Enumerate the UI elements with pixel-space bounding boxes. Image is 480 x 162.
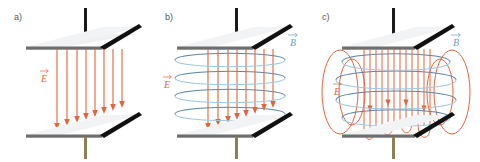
panel-a: a) E xyxy=(0,0,158,162)
e-field-label: E xyxy=(40,73,47,84)
e-field-lines xyxy=(57,49,122,126)
panel-a-label: a) xyxy=(14,12,22,22)
bottom-plate-edge xyxy=(342,135,415,138)
b-field-label: B xyxy=(290,37,296,48)
top-plate-edge xyxy=(177,47,253,50)
top-lead xyxy=(235,8,238,34)
bottom-plate xyxy=(342,112,455,138)
b-field-rings-back xyxy=(175,53,285,114)
b-field-label-group: B xyxy=(451,33,460,48)
e-field-label-group: E xyxy=(40,69,48,84)
e-field-label: E xyxy=(333,86,340,97)
bottom-plate-edge xyxy=(177,135,253,138)
top-plate-edge xyxy=(26,47,102,50)
b-field-label-group: B xyxy=(288,33,297,48)
panel-c-label: c) xyxy=(322,12,330,22)
panel-c: c) E B xyxy=(312,0,480,162)
b-field-rings-back xyxy=(336,54,456,118)
bottom-plate-edge xyxy=(26,135,102,138)
panel-a-svg: a) E xyxy=(0,0,158,162)
top-plate xyxy=(342,24,455,50)
figure-root: a) E xyxy=(0,0,480,162)
panel-b-svg: b) E B xyxy=(155,0,315,162)
panel-c-svg: c) E B xyxy=(312,0,480,162)
e-field-label-group: E xyxy=(163,75,171,90)
e-field-lines xyxy=(208,49,273,126)
top-lead xyxy=(84,8,87,34)
panel-b: b) E B xyxy=(155,0,315,162)
bottom-plate xyxy=(26,112,142,138)
b-field-label: B xyxy=(453,37,459,48)
e-field-label-group: E xyxy=(333,82,341,97)
top-lead xyxy=(392,8,395,34)
bottom-lead xyxy=(392,137,395,159)
e-field-label: E xyxy=(163,79,170,90)
top-plate-edge xyxy=(342,47,415,50)
bottom-lead xyxy=(84,137,87,159)
panel-b-label: b) xyxy=(165,12,173,22)
bottom-lead xyxy=(235,137,238,159)
b-field-rings-front xyxy=(175,60,285,121)
bottom-plate xyxy=(177,112,293,138)
